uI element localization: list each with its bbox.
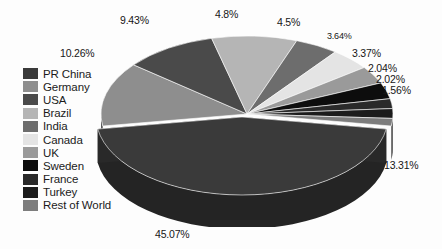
pie-chart-figure: PR ChinaGermanyUSABrazilIndiaCanadaUKSwe… [0,0,442,249]
legend-item[interactable]: India [23,120,111,133]
legend-item[interactable]: Canada [23,133,111,146]
legend-swatch [23,81,38,92]
legend-item-label: India [43,120,67,132]
slice-percentage-label: 4.5% [277,16,300,28]
legend-item[interactable]: PR China [23,67,111,80]
legend-item-label: Turkey [43,186,77,198]
legend-item-label: France [43,173,78,185]
legend-item[interactable]: France [23,173,111,186]
legend-item[interactable]: UK [23,146,111,159]
legend-swatch [23,134,38,145]
slice-percentage-label: 3.37% [352,47,381,59]
legend: PR ChinaGermanyUSABrazilIndiaCanadaUKSwe… [23,67,111,212]
legend-item-label: USA [43,94,66,106]
legend-item-label: PR China [43,68,91,80]
legend-item[interactable]: USA [23,93,111,106]
legend-item[interactable]: Rest of World [23,199,111,212]
legend-item-label: Canada [43,134,83,146]
legend-swatch [23,147,38,158]
legend-swatch [23,200,38,211]
slice-percentage-label: 4.8% [215,8,238,20]
slice-percentage-label: 13.31% [384,159,418,171]
legend-swatch [23,94,38,105]
legend-item[interactable]: Sweden [23,159,111,172]
slice-percentage-label: 9.43% [120,14,149,26]
legend-item-label: Rest of World [43,199,111,211]
legend-swatch [23,68,38,79]
legend-item-label: UK [43,147,59,159]
legend-item-label: Sweden [43,160,84,172]
legend-swatch [23,174,38,185]
legend-item-label: Brazil [43,107,71,119]
legend-swatch [23,187,38,198]
legend-item[interactable]: Germany [23,80,111,93]
legend-swatch [23,108,38,119]
legend-swatch [23,121,38,132]
legend-item[interactable]: Turkey [23,186,111,199]
legend-item[interactable]: Brazil [23,107,111,120]
slice-percentage-label: 45.07% [155,228,189,240]
legend-item-label: Germany [43,81,90,93]
slice-percentage-label: 10.26% [60,47,94,59]
slice-percentage-label: 1.56% [382,84,411,96]
legend-swatch [23,160,38,171]
slice-percentage-label: 3.64% [327,31,352,41]
